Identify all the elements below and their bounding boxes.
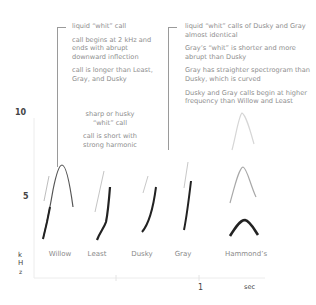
least-spectrogram [95, 171, 110, 240]
spectrogram-canvas [0, 0, 316, 305]
gray-spectrogram [184, 162, 191, 230]
willow-spectrogram [43, 165, 73, 239]
hammonds-spectrogram [230, 113, 258, 236]
dusky-spectrogram [142, 176, 156, 232]
